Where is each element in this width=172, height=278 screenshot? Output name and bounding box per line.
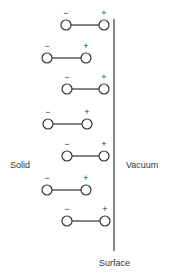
minus-sign: − (64, 72, 69, 82)
negative-charge-circle (42, 53, 52, 63)
dipole: −+ (62, 204, 110, 226)
negative-charge-circle (62, 216, 72, 226)
positive-charge-circle (81, 185, 91, 195)
dipole: −+ (43, 107, 92, 129)
dipole: −+ (42, 41, 91, 63)
positive-charge-circle (82, 119, 92, 129)
plus-sign: + (83, 41, 88, 51)
positive-charge-circle (100, 216, 110, 226)
surface-label: Surface (99, 258, 130, 268)
plus-sign: + (102, 204, 107, 214)
minus-sign: − (63, 8, 68, 18)
negative-charge-circle (42, 185, 52, 195)
negative-charge-circle (43, 119, 53, 129)
positive-charge-circle (99, 151, 109, 161)
dipole: −+ (62, 72, 109, 94)
plus-sign: + (83, 173, 88, 183)
negative-charge-circle (61, 20, 71, 30)
minus-sign: − (64, 139, 69, 149)
positive-charge-circle (81, 53, 91, 63)
positive-charge-circle (99, 84, 109, 94)
minus-sign: − (44, 41, 49, 51)
minus-sign: − (44, 173, 49, 183)
solid-label: Solid (10, 160, 30, 170)
minus-sign: − (64, 204, 69, 214)
minus-sign: − (45, 107, 50, 117)
dipole: −+ (62, 139, 109, 161)
dipole-group: −+−+−+−+−+−+−+ (42, 8, 110, 226)
plus-sign: + (101, 139, 106, 149)
plus-sign: + (101, 8, 106, 18)
negative-charge-circle (62, 151, 72, 161)
plus-sign: + (84, 107, 89, 117)
positive-charge-circle (99, 20, 109, 30)
negative-charge-circle (62, 84, 72, 94)
dipole: −+ (42, 173, 91, 195)
dipole-surface-diagram: −+−+−+−+−+−+−+ Solid Vacuum Surface (0, 0, 172, 278)
dipole: −+ (61, 8, 109, 30)
vacuum-label: Vacuum (126, 160, 158, 170)
plus-sign: + (101, 72, 106, 82)
